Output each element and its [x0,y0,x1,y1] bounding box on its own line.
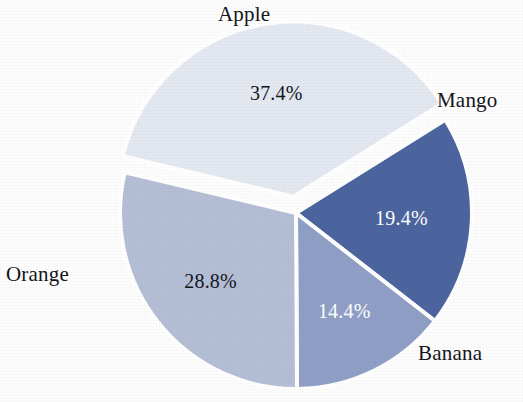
pie-value-banana: 28.8% [184,269,237,292]
pie-label-orange: Orange [6,262,69,287]
pie-value-apple: 19.4% [375,207,428,230]
pie-value-orange: 37.4% [250,82,303,105]
pie-value-mango: 14.4% [318,299,371,322]
pie-label-apple: Apple [218,2,270,27]
pie-slice-group [120,21,472,389]
pie-label-banana: Banana [418,341,482,366]
pie-chart: Apple Mango Banana Orange 19.4% 14.4% 28… [0,0,523,402]
pie-label-mango: Mango [437,88,498,113]
